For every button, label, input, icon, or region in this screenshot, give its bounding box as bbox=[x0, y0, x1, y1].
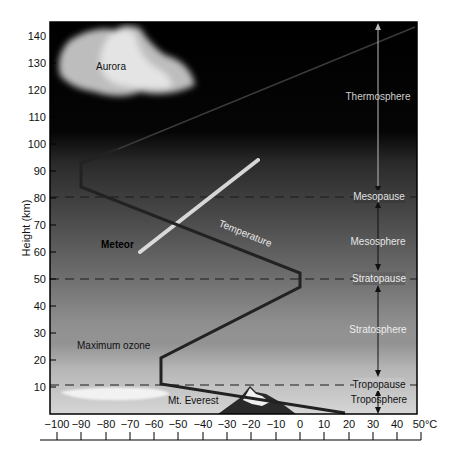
x-tick-label: 20 bbox=[343, 418, 355, 430]
y-tick-label: 120 bbox=[28, 84, 46, 96]
y-tick-label: 50 bbox=[34, 273, 46, 285]
x-tick-label: 0 bbox=[297, 418, 303, 430]
x-tick-labels: −100 −90 −80 −70 −60 −50 −40 −30 −20 −10… bbox=[45, 418, 438, 430]
y-tick-label: 100 bbox=[28, 138, 46, 150]
x-axis-ticks bbox=[57, 432, 421, 440]
mesosphere-label: Mesosphere bbox=[350, 236, 405, 247]
y-tick-label: 140 bbox=[28, 30, 46, 42]
y-tick-label: 90 bbox=[34, 165, 46, 177]
thermosphere-label: Thermosphere bbox=[345, 91, 410, 102]
x-tick-label: −90 bbox=[72, 418, 91, 430]
x-tick-label: −80 bbox=[97, 418, 116, 430]
x-tick-label: −30 bbox=[218, 418, 237, 430]
everest-label: Mt. Everest bbox=[168, 395, 219, 406]
y-tick-label: 130 bbox=[28, 57, 46, 69]
x-tick-label: −40 bbox=[194, 418, 213, 430]
x-tick-label: 30 bbox=[367, 418, 379, 430]
troposphere-label: Troposphere bbox=[351, 394, 408, 405]
x-tick-label: 40 bbox=[391, 418, 403, 430]
x-tick-label: −10 bbox=[267, 418, 286, 430]
x-tick-label: −70 bbox=[121, 418, 140, 430]
mesopause-label: Mesopause bbox=[353, 191, 405, 202]
y-tick-label: 10 bbox=[34, 381, 46, 393]
y-tick-label: 30 bbox=[34, 327, 46, 339]
aurora-label: Aurora bbox=[96, 61, 126, 72]
max-ozone-label: Maximum ozone bbox=[77, 340, 151, 351]
tropopause-label: Tropopause bbox=[353, 379, 406, 390]
x-tick-label: 50°C bbox=[413, 418, 438, 430]
x-tick-label: −100 bbox=[45, 418, 70, 430]
y-tick-label: 70 bbox=[34, 219, 46, 231]
atmosphere-diagram: Aurora Mt. Everest Meteor Temperature Ma… bbox=[0, 0, 449, 459]
y-axis-label: Height (km) bbox=[20, 200, 32, 257]
y-tick-label: 20 bbox=[34, 354, 46, 366]
x-tick-label: −60 bbox=[145, 418, 164, 430]
x-tick-label: −50 bbox=[169, 418, 188, 430]
y-tick-label: 40 bbox=[34, 300, 46, 312]
stratosphere-label: Stratosphere bbox=[349, 324, 407, 335]
y-tick-label: 60 bbox=[34, 246, 46, 258]
x-tick-label: 10 bbox=[318, 418, 330, 430]
stratopause-label: Stratopause bbox=[352, 273, 406, 284]
x-tick-label: −20 bbox=[242, 418, 261, 430]
meteor-label: Meteor bbox=[101, 239, 134, 250]
y-tick-label: 80 bbox=[34, 192, 46, 204]
y-tick-label: 110 bbox=[28, 111, 46, 123]
